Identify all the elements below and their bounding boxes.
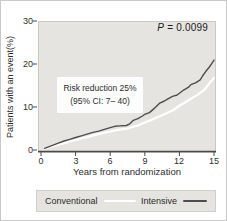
y-tick-label: 20	[11, 59, 33, 70]
legend: Conventional Intensive	[36, 190, 216, 212]
annotation-line1: Risk reduction 25%	[57, 82, 143, 95]
legend-label-conventional: Conventional	[45, 196, 98, 206]
p-value: P = 0.0099	[157, 22, 208, 33]
legend-item-intensive: Intensive	[141, 196, 207, 206]
annotation-line2: (95% CI: 7– 40)	[57, 95, 143, 108]
annotation-box: Risk reduction 25% (95% CI: 7– 40)	[57, 77, 143, 113]
y-tick-label: 10	[11, 102, 33, 113]
y-tick-label: 30	[11, 16, 33, 27]
intensive-line-sample	[183, 200, 207, 202]
figure: Patients with an event(%) 0 10 20 30 P =…	[0, 0, 227, 221]
legend-label-intensive: Intensive	[141, 196, 177, 206]
x-axis-label: Years from randomization	[38, 166, 216, 177]
y-tick-label: 0	[11, 145, 33, 156]
y-axis-label: Patients with an event(%)	[5, 36, 15, 138]
conventional-line-sample	[104, 200, 136, 202]
legend-item-conventional: Conventional	[45, 196, 136, 206]
p-value-text: = 0.0099	[164, 22, 208, 33]
